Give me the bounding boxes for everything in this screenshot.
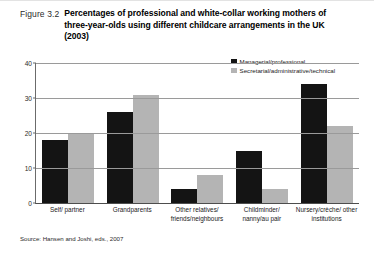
bar[interactable] — [42, 140, 68, 203]
top-rule — [0, 0, 374, 1]
y-axis-tick-label: 40 — [25, 60, 32, 67]
bar[interactable] — [171, 189, 197, 203]
gridline — [36, 168, 359, 169]
y-axis-tick-label: 20 — [25, 130, 32, 137]
bar[interactable] — [262, 189, 288, 203]
gridline — [36, 98, 359, 99]
y-axis-tick-mark — [33, 98, 36, 99]
gridline — [36, 133, 359, 134]
y-axis-tick-mark — [33, 63, 36, 64]
y-axis-tick-mark — [33, 168, 36, 169]
bar[interactable] — [327, 126, 353, 203]
y-axis-tick-label: 30 — [25, 95, 32, 102]
x-axis-label: Grandparents — [100, 206, 165, 223]
x-axis-label: Nursery/crèche/ other institutions — [294, 206, 359, 223]
y-axis-tick-mark — [33, 133, 36, 134]
x-axis-label: Childminder/ nanny/au pair — [229, 206, 294, 223]
bar[interactable] — [133, 95, 159, 204]
source-note: Source: Hansen and Joshi, eds., 2007 — [20, 235, 123, 242]
x-axis-labels: Self/ partnerGrandparentsOther relatives… — [35, 206, 359, 223]
y-axis-tick-label: 10 — [25, 165, 32, 172]
figure-container: Figure 3.2 Percentages of professional a… — [0, 0, 374, 261]
figure-header: Figure 3.2 Percentages of professional a… — [20, 8, 366, 43]
bar[interactable] — [107, 112, 133, 203]
y-axis-tick-mark — [33, 203, 36, 204]
plot-area-wrapper: 010203040 — [35, 63, 359, 203]
y-axis-tick-label: 0 — [28, 200, 32, 207]
gridline — [36, 63, 359, 64]
plot-area: 010203040 — [35, 63, 359, 203]
bar[interactable] — [236, 151, 262, 204]
page-title: Percentages of professional and white-co… — [64, 8, 332, 43]
x-axis-label: Other relatives/ friends/neighbours — [165, 206, 230, 223]
bar[interactable] — [197, 175, 223, 203]
x-axis-label: Self/ partner — [35, 206, 100, 223]
x-axis-line — [35, 203, 359, 205]
figure-number: Figure 3.2 — [20, 8, 59, 19]
bar[interactable] — [301, 84, 327, 203]
